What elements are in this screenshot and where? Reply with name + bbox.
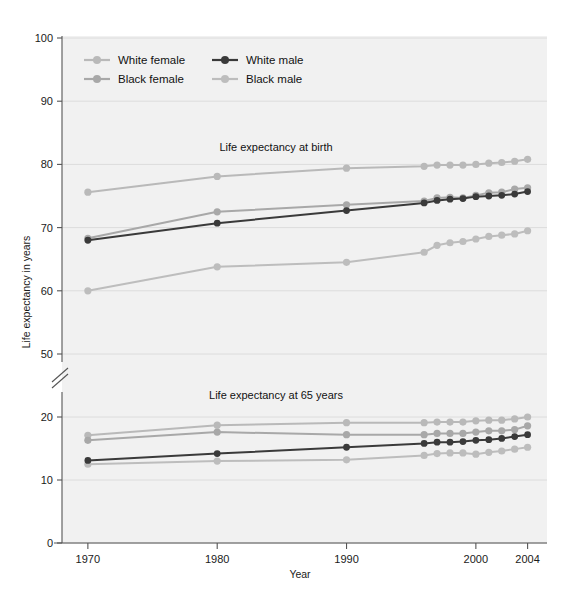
data-point (433, 161, 440, 168)
data-point (214, 458, 221, 465)
data-point (498, 192, 505, 199)
data-point (214, 263, 221, 270)
data-point (472, 429, 479, 436)
data-point (485, 436, 492, 443)
x-tick-label: 2004 (515, 553, 539, 565)
x-axis-title: Year (289, 568, 311, 580)
data-point (84, 287, 91, 294)
data-point (421, 431, 428, 438)
legend-marker-icon (93, 56, 101, 64)
panel-title-lower: Life expectancy at 65 years (209, 389, 343, 401)
legend-label: White female (118, 54, 185, 66)
data-point (511, 446, 518, 453)
data-point (421, 419, 428, 426)
data-point (459, 418, 466, 425)
data-point (472, 161, 479, 168)
y-tick-label: 80 (41, 158, 53, 170)
data-point (524, 431, 531, 438)
data-point (84, 189, 91, 196)
data-point (498, 427, 505, 434)
y-tick-label: 10 (41, 474, 53, 486)
y-tick-label: 60 (41, 285, 53, 297)
data-point (511, 191, 518, 198)
data-point (214, 450, 221, 457)
y-tick-label: 20 (41, 411, 53, 423)
data-point (472, 417, 479, 424)
y-tick-label: 100 (35, 32, 53, 44)
data-point (214, 173, 221, 180)
data-point (472, 235, 479, 242)
data-point (84, 457, 91, 464)
data-point (214, 208, 221, 215)
data-point (421, 440, 428, 447)
legend-marker-icon (221, 75, 229, 83)
data-point (84, 237, 91, 244)
data-point (460, 438, 467, 445)
data-point (446, 449, 453, 456)
data-point (511, 415, 518, 422)
data-point (498, 417, 505, 424)
data-point (343, 165, 350, 172)
data-point (447, 439, 454, 446)
data-point (343, 444, 350, 451)
data-point (485, 160, 492, 167)
legend-marker-icon (93, 75, 101, 83)
y-tick-label: 90 (41, 95, 53, 107)
data-point (524, 188, 531, 195)
data-point (459, 430, 466, 437)
data-point (511, 158, 518, 165)
legend-label: White male (246, 54, 304, 66)
data-point (511, 433, 518, 440)
data-point (472, 193, 479, 200)
data-point (447, 196, 454, 203)
y-tick-label: 0 (47, 537, 53, 549)
plot-area-background (62, 36, 547, 543)
data-point (485, 417, 492, 424)
data-point (446, 239, 453, 246)
data-point (421, 452, 428, 459)
data-point (472, 437, 479, 444)
data-point (421, 249, 428, 256)
data-point (524, 444, 531, 451)
data-point (511, 230, 518, 237)
data-point (446, 418, 453, 425)
data-point (485, 427, 492, 434)
plot-background (62, 36, 547, 543)
data-point (459, 238, 466, 245)
data-point (524, 422, 531, 429)
chart-canvas: 100908070605020100 19701980199020002004 … (0, 0, 582, 607)
data-point (434, 197, 441, 204)
x-tick-label: 1990 (334, 553, 358, 565)
data-point (446, 161, 453, 168)
legend-marker-icon (221, 56, 229, 64)
data-point (485, 449, 492, 456)
y-tick-label: 50 (41, 348, 53, 360)
data-point (498, 435, 505, 442)
data-point (214, 220, 221, 227)
data-point (511, 426, 518, 433)
data-point (498, 447, 505, 454)
data-point (433, 418, 440, 425)
data-point (524, 227, 531, 234)
x-tick-label: 1980 (205, 553, 229, 565)
data-point (343, 419, 350, 426)
data-point (460, 195, 467, 202)
panel-title-upper: Life expectancy at birth (219, 141, 332, 153)
data-point (433, 450, 440, 457)
data-point (459, 449, 466, 456)
data-point (421, 163, 428, 170)
data-point (343, 431, 350, 438)
data-point (84, 437, 91, 444)
y-axis-title: Life expectancy in years (20, 236, 32, 349)
data-point (433, 242, 440, 249)
data-point (472, 451, 479, 458)
data-point (498, 232, 505, 239)
data-point (421, 200, 428, 207)
data-point (485, 193, 492, 200)
y-tick-label: 70 (41, 222, 53, 234)
data-point (343, 259, 350, 266)
data-point (343, 456, 350, 463)
x-tick-label: 2000 (464, 553, 488, 565)
data-point (446, 430, 453, 437)
data-point (498, 159, 505, 166)
